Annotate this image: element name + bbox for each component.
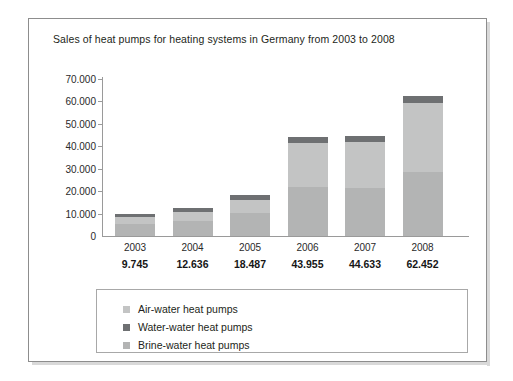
y-axis-tick-mark	[98, 101, 103, 102]
bar-segment-brine-water-heat-pumps	[115, 224, 155, 236]
bar-segment-water-water-heat-pumps	[288, 137, 328, 143]
y-axis-tick-label: 70.000	[40, 74, 96, 85]
bar-segment-water-water-heat-pumps	[230, 195, 270, 201]
bar-2007[interactable]	[345, 136, 385, 236]
bar-2003[interactable]	[115, 214, 155, 236]
y-axis-tick-label: 40.000	[40, 141, 96, 152]
y-axis-tick-label: 20.000	[40, 186, 96, 197]
legend-swatch-icon	[123, 306, 130, 313]
bar-segment-water-water-heat-pumps	[345, 136, 385, 142]
page-canvas: Sales of heat pumps for heating systems …	[0, 0, 513, 381]
bar-2004[interactable]	[173, 208, 213, 236]
legend-item[interactable]: Air-water heat pumps	[123, 302, 238, 316]
y-axis-tick-mark	[98, 191, 103, 192]
legend-item[interactable]: Water-water heat pumps	[123, 320, 253, 334]
y-axis-tick-label: 0	[40, 231, 96, 242]
bar-segment-water-water-heat-pumps	[403, 96, 443, 103]
bar-2006[interactable]	[288, 137, 328, 236]
bar-segment-air-water-heat-pumps	[288, 143, 328, 187]
bar-segment-air-water-heat-pumps	[403, 103, 443, 173]
y-axis-tick-mark	[98, 169, 103, 170]
y-axis-tick-mark	[98, 124, 103, 125]
y-axis-tick-mark	[98, 79, 103, 80]
legend-item-label: Brine-water heat pumps	[138, 339, 249, 351]
bar-segment-brine-water-heat-pumps	[345, 188, 385, 236]
bar-segment-brine-water-heat-pumps	[230, 213, 270, 236]
bar-segment-air-water-heat-pumps	[345, 142, 385, 188]
bar-2008[interactable]	[403, 96, 443, 236]
legend-item-label: Air-water heat pumps	[138, 303, 238, 315]
bar-total-label: 62.452	[388, 258, 458, 270]
y-axis-tick-label: 10.000	[40, 208, 96, 219]
x-axis-line	[102, 236, 469, 237]
y-axis-tick-mark	[98, 214, 103, 215]
legend-swatch-icon	[123, 342, 130, 349]
chart-legend: Air-water heat pumpsWater-water heat pum…	[96, 289, 468, 353]
y-axis-tick-label: 50.000	[40, 118, 96, 129]
bar-segment-air-water-heat-pumps	[230, 200, 270, 213]
bar-segment-air-water-heat-pumps	[115, 217, 155, 224]
y-axis-tick-label: 60.000	[40, 96, 96, 107]
bar-2005[interactable]	[230, 195, 270, 236]
y-axis-tick-label: 30.000	[40, 163, 96, 174]
legend-swatch-icon	[123, 324, 130, 331]
legend-item-label: Water-water heat pumps	[138, 321, 253, 333]
x-axis-category-label: 2008	[388, 242, 458, 253]
bar-segment-air-water-heat-pumps	[173, 212, 213, 222]
bar-segment-brine-water-heat-pumps	[173, 221, 213, 236]
bar-segment-brine-water-heat-pumps	[288, 187, 328, 236]
bar-segment-brine-water-heat-pumps	[403, 172, 443, 236]
bar-segment-water-water-heat-pumps	[173, 208, 213, 212]
chart-frame: Sales of heat pumps for heating systems …	[28, 18, 487, 362]
y-axis-tick-mark	[98, 146, 103, 147]
bar-segment-water-water-heat-pumps	[115, 214, 155, 217]
legend-item[interactable]: Brine-water heat pumps	[123, 338, 249, 352]
